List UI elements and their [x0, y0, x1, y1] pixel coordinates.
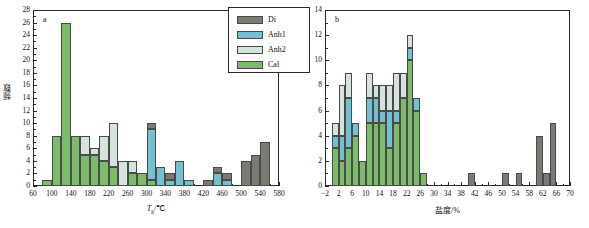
bar-segment: [260, 142, 269, 186]
bar-segment: [118, 161, 127, 186]
legend-item-cal[interactable]: Cal: [237, 60, 279, 69]
y-tick: [33, 35, 37, 36]
legend-item-anh1[interactable]: Anh1: [237, 30, 286, 39]
y-minor-tick: [33, 54, 36, 55]
y-tick: [33, 60, 37, 61]
y-minor-tick: [33, 29, 36, 30]
y-tick-label: 18: [10, 68, 30, 77]
x-axis-label-a: Th/℃: [33, 204, 279, 215]
y-tick: [33, 186, 37, 187]
bar-segment: [345, 98, 352, 148]
x-tick: [279, 182, 280, 186]
x-minor-tick: [427, 184, 428, 187]
x-minor-tick: [454, 184, 455, 187]
bar-segment: [165, 180, 174, 186]
y-tick-label: 4: [10, 156, 30, 165]
bar-segment: [352, 123, 359, 136]
bar-segment: [339, 161, 346, 186]
y-tick: [325, 10, 329, 11]
bar-segment: [393, 111, 400, 124]
bar-segment: [109, 167, 118, 186]
y-tick: [33, 123, 37, 124]
x-minor-tick: [270, 184, 271, 187]
y-tick-label: 8: [10, 131, 30, 140]
bar-segment: [147, 129, 156, 179]
y-tick: [33, 136, 37, 137]
x-tick: [475, 182, 476, 186]
bar-segment: [213, 173, 222, 186]
y-minor-tick: [325, 73, 328, 74]
y-tick-label: 2: [10, 168, 30, 177]
bar-segment: [147, 123, 156, 129]
bar-segment: [543, 173, 550, 186]
y-tick: [33, 161, 37, 162]
bar-segment: [175, 161, 184, 186]
y-tick: [33, 73, 37, 74]
y-minor-tick: [325, 48, 328, 49]
y-tick-label: 20: [10, 55, 30, 64]
bar-segment: [550, 123, 557, 186]
y-minor-tick: [33, 104, 36, 105]
bar-segment: [61, 23, 70, 186]
panel-letter-b: b: [335, 15, 339, 24]
bar-segment: [109, 123, 118, 167]
y-tick-label: 28: [10, 5, 30, 14]
legend-item-di[interactable]: Di: [237, 15, 276, 24]
y-minor-tick: [33, 129, 36, 130]
legend: DiAnh1Anh2Cal: [228, 7, 310, 73]
bar-segment: [366, 73, 373, 98]
bar-segment: [366, 123, 373, 186]
legend-label: Di: [268, 15, 276, 24]
y-minor-tick: [33, 79, 36, 80]
y-tick: [325, 186, 329, 187]
bar-segment: [536, 136, 543, 186]
bar-segment: [80, 155, 89, 186]
y-tick-label: 0: [10, 181, 30, 190]
chart-panel-b: b 盐度/% −22610141822263034384246505458626…: [293, 0, 589, 228]
bar-segment: [90, 148, 99, 154]
bar-segment: [386, 85, 393, 110]
y-tick: [325, 35, 329, 36]
y-tick-label: 22: [10, 43, 30, 52]
bar-segment: [90, 155, 99, 186]
bar-segment: [413, 98, 420, 111]
x-minor-tick: [482, 184, 483, 187]
x-minor-tick: [194, 184, 195, 187]
bar-segment: [373, 98, 380, 123]
x-minor-tick: [441, 184, 442, 187]
bar-segment: [147, 180, 156, 186]
bar-segment: [400, 98, 407, 186]
y-minor-tick: [325, 148, 328, 149]
y-minor-tick: [33, 180, 36, 181]
bar-segment: [379, 111, 386, 124]
x-axis-label-b: 盐度/%: [325, 204, 570, 215]
bar-segment: [80, 136, 89, 155]
y-tick: [33, 173, 37, 174]
y-minor-tick: [33, 41, 36, 42]
bar-segment: [332, 148, 339, 186]
bar-segment: [184, 180, 193, 186]
figure-container: 频数 a Th/℃ 601001401802202603003403804204…: [0, 0, 589, 228]
legend-item-anh2[interactable]: Anh2: [237, 45, 286, 54]
legend-swatch-cal: [237, 61, 263, 69]
legend-label: Anh2: [268, 45, 286, 54]
x-tick: [448, 182, 449, 186]
legend-label: Cal: [268, 60, 279, 69]
plot-area-b: [325, 10, 570, 186]
y-minor-tick: [325, 173, 328, 174]
bar-segment: [379, 85, 386, 110]
y-minor-tick: [325, 23, 328, 24]
legend-label: Anh1: [268, 30, 286, 39]
bar-segment: [352, 136, 359, 186]
bar-segment: [345, 73, 352, 98]
y-minor-tick: [33, 92, 36, 93]
bar-segment: [516, 173, 523, 186]
y-minor-tick: [33, 155, 36, 156]
bar-segment: [222, 173, 231, 179]
y-tick-label: 10: [10, 118, 30, 127]
bar-segment: [407, 48, 414, 61]
x-tick: [556, 182, 557, 186]
bar-segment: [386, 111, 393, 149]
x-minor-tick: [495, 184, 496, 187]
x-minor-tick: [563, 184, 564, 187]
